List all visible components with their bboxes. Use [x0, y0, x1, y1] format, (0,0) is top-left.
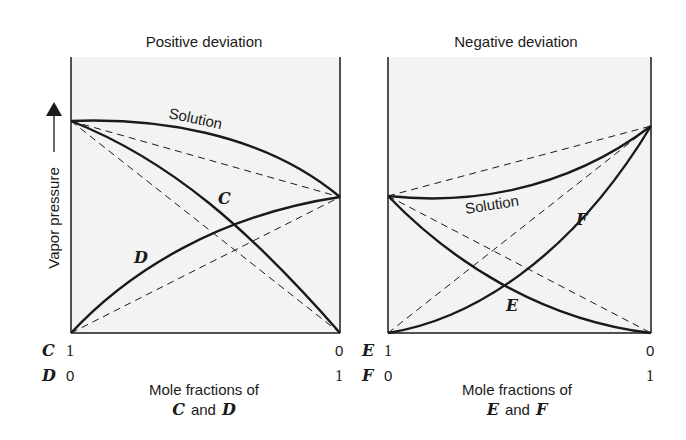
x-row2-component: D: [41, 366, 56, 385]
x-caption-line1: Mole fractions of: [462, 381, 573, 398]
x-caption-line2: CandD: [172, 400, 236, 419]
x-row1-component: E: [361, 341, 375, 360]
panel-negative-deviation: Solution F E Negative deviation E 1 0 F …: [361, 33, 654, 419]
x-caption-component-a: E: [486, 400, 500, 419]
d-curve-label: D: [133, 248, 148, 267]
plot-area: [71, 57, 340, 333]
x-row2-left: 0: [384, 367, 392, 384]
e-curve-label: E: [505, 296, 519, 315]
x-caption-component-b: F: [535, 400, 549, 419]
c-curve-label: C: [218, 189, 231, 208]
x-row1-component: C: [42, 341, 55, 360]
plot-area: [388, 57, 651, 333]
y-axis-label-group: Vapor pressure: [45, 102, 62, 269]
x-caption-component-a: C: [172, 400, 185, 419]
x-caption-component-b: D: [221, 400, 236, 419]
x-row1-left: 1: [66, 342, 74, 359]
y-axis-label: Vapor pressure: [45, 167, 62, 268]
x-row1-right: 0: [335, 342, 343, 359]
x-row2-right: 1: [335, 367, 343, 384]
x-caption-and: and: [505, 401, 530, 418]
panel-title: Positive deviation: [146, 33, 263, 50]
x-caption-line1: Mole fractions of: [149, 381, 260, 398]
x-row2-component: F: [361, 366, 375, 385]
x-row2-left: 0: [66, 367, 74, 384]
x-row1-right: 0: [646, 342, 654, 359]
arrow-up-icon: [46, 102, 62, 116]
x-caption-line2: EandF: [486, 400, 549, 419]
x-row2-right: 1: [646, 367, 654, 384]
panel-title: Negative deviation: [454, 33, 577, 50]
vapor-pressure-diagram: Solution C D Positive deviation C 1 0 D …: [0, 0, 686, 440]
f-curve-label: F: [575, 210, 589, 229]
x-row1-left: 1: [384, 342, 392, 359]
x-caption-and: and: [191, 401, 216, 418]
panel-positive-deviation: Solution C D Positive deviation C 1 0 D …: [41, 33, 343, 419]
